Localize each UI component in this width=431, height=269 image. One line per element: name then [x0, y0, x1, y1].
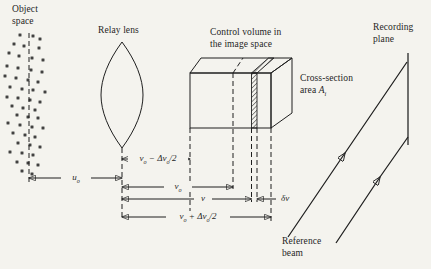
- box-front-face: [190, 73, 271, 128]
- cross-section-label-line1: Cross-section: [300, 73, 353, 85]
- cross-section-word: area: [300, 85, 316, 95]
- particle-dot: [19, 124, 21, 126]
- particle-dot: [18, 55, 20, 57]
- particle-dot: [9, 86, 11, 88]
- particle-dot: [8, 52, 10, 54]
- particle-dot: [12, 132, 14, 134]
- particle-dot: [22, 107, 24, 109]
- u0-dimension-label: uo: [61, 172, 91, 183]
- particle-dot: [7, 122, 9, 124]
- particle-dot: [17, 67, 19, 69]
- measurement-slab-front: [252, 73, 258, 128]
- reference-beam-label: Reference beam: [282, 236, 321, 260]
- particle-dot: [6, 96, 8, 98]
- particle-dot: [39, 38, 41, 40]
- control-volume-label: Control volume in the image space: [210, 27, 281, 51]
- cross-section-label-line2: area Ai: [300, 85, 353, 97]
- particle-dot: [15, 77, 17, 79]
- particle-dot: [34, 109, 36, 111]
- particle-dot: [37, 164, 39, 166]
- particle-dot: [32, 89, 34, 91]
- particle-dot: [16, 161, 18, 163]
- image-plane-top-dashed-line: [233, 58, 243, 73]
- particle-dot: [23, 45, 25, 47]
- particle-dot: [19, 34, 21, 36]
- particle-dot: [32, 154, 34, 156]
- particle-dot: [37, 117, 39, 119]
- particle-dot: [27, 116, 29, 118]
- object-space-label-line2: space: [12, 16, 38, 28]
- reference-beam-label-line2: beam: [282, 248, 321, 260]
- particle-dot: [31, 173, 33, 175]
- v0-minus-dimension-label: vo − Δvo/2: [128, 153, 188, 164]
- particle-dot: [31, 57, 33, 59]
- particle-dot: [42, 59, 44, 61]
- reference-beam-label-line1: Reference: [282, 236, 321, 248]
- cross-section-area-symbol: Ai: [319, 85, 327, 95]
- particle-dot: [13, 43, 15, 45]
- recording-plane-label-line2: plane: [373, 34, 413, 46]
- particle-dot: [29, 144, 31, 146]
- v0-plus-dimension-label: vo + Δvo/2: [166, 211, 230, 222]
- particle-dot: [11, 105, 13, 107]
- particle-dot: [37, 81, 39, 83]
- measurement-slab-top: [252, 58, 275, 73]
- particle-dot: [44, 91, 46, 93]
- particle-dot: [29, 99, 31, 101]
- particle-dot: [30, 69, 32, 71]
- particle-dot: [38, 47, 40, 49]
- particle-dot: [27, 162, 29, 164]
- control-volume-box: [190, 58, 292, 189]
- particle-dot: [17, 142, 19, 144]
- recording-plane-label-line1: Recording: [373, 22, 413, 34]
- particle-dot: [39, 146, 41, 148]
- recording-plane-label: Recording plane: [373, 22, 413, 46]
- box-top-face: [190, 58, 292, 73]
- particle-dot: [27, 79, 29, 81]
- particle-dot: [39, 101, 41, 103]
- reference-beam-lower: [336, 137, 408, 243]
- relay-lens-label-text: Relay lens: [98, 25, 139, 37]
- particle-dot: [42, 127, 44, 129]
- control-volume-label-line1: Control volume in: [210, 27, 281, 39]
- delta-v-dimension-label: δv: [279, 193, 291, 204]
- particle-dot: [34, 136, 36, 138]
- particle-dots: [4, 34, 46, 175]
- particle-dot: [9, 151, 11, 153]
- particle-dot: [32, 35, 34, 37]
- dimension-lines: [29, 159, 276, 217]
- particle-dot: [41, 71, 43, 73]
- object-space-label: Object space: [12, 4, 38, 28]
- particle-dot: [24, 134, 26, 136]
- v-dimension-label: v: [194, 193, 212, 204]
- particle-dot: [21, 152, 23, 154]
- v0-dimension-label: vo: [164, 181, 192, 192]
- figure-page: Object space Relay lens Control volume i…: [0, 0, 431, 269]
- cross-section-label: Cross-section area Ai: [300, 73, 353, 97]
- particle-dot: [17, 97, 19, 99]
- particle-dot: [4, 75, 6, 77]
- control-volume-label-line2: the image space: [210, 39, 281, 51]
- relay-lens-label: Relay lens: [98, 25, 139, 37]
- box-right-face: [271, 58, 292, 128]
- relay-lens-shape: [101, 42, 143, 148]
- particle-dot: [16, 114, 18, 116]
- extension-dashed-lines: [190, 128, 271, 222]
- particle-dot: [21, 170, 23, 172]
- object-space-label-line1: Object: [12, 4, 38, 16]
- particle-dot: [21, 88, 23, 90]
- particle-dot: [31, 126, 33, 128]
- particle-dot: [6, 65, 8, 67]
